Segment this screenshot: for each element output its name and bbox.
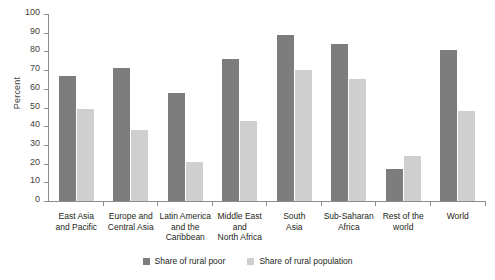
legend-swatch-icon <box>247 258 254 265</box>
x-axis-category-line: North Africa <box>213 232 268 243</box>
x-axis-category-label: Sub-SaharanAfrica <box>322 202 377 248</box>
y-axis-tick-label: 0 <box>8 195 40 204</box>
x-axis-categories: East Asiaand PacificEurope andCentral As… <box>49 202 485 248</box>
x-axis-separator-tick <box>103 202 104 206</box>
legend-item[interactable]: Share of rural population <box>247 256 352 266</box>
x-axis-separator-tick <box>485 202 486 206</box>
chart-legend: Share of rural poorShare of rural popula… <box>0 256 495 266</box>
y-axis-ticks: 1009080706050403020100 <box>0 14 48 202</box>
x-axis-category-line: and Pacific <box>49 222 104 233</box>
bar-group <box>431 14 486 201</box>
bar <box>349 79 366 201</box>
bar-group <box>376 14 431 201</box>
bar-group <box>49 14 104 201</box>
bar <box>386 169 403 201</box>
x-axis-category-line: East Asia <box>49 211 104 222</box>
legend-label: Share of rural population <box>259 256 352 266</box>
bar <box>186 162 203 201</box>
x-axis-category-line: Europe and <box>104 211 159 222</box>
y-axis-tick-label: 70 <box>8 64 40 73</box>
bar <box>277 35 294 201</box>
x-axis-category-line: World <box>431 211 486 222</box>
legend-label: Share of rural poor <box>155 256 226 266</box>
bar <box>295 70 312 201</box>
bar <box>404 156 421 201</box>
x-axis-category-line: Caribbean <box>158 232 213 243</box>
x-axis-category-label: Europe andCentral Asia <box>104 202 159 248</box>
x-axis-category-line: and <box>213 222 268 233</box>
bar-groups <box>49 14 485 201</box>
bar <box>240 121 257 201</box>
y-axis-tick-label: 30 <box>8 139 40 148</box>
bar <box>440 50 457 201</box>
x-axis-category-line: Rest of the <box>376 211 431 222</box>
bar-group <box>322 14 377 201</box>
x-axis-category-label: Latin Americaand theCaribbean <box>158 202 213 248</box>
bar <box>222 59 239 201</box>
x-axis-separator-tick <box>321 202 322 206</box>
legend-item[interactable]: Share of rural poor <box>143 256 226 266</box>
x-axis-separator-tick <box>157 202 158 206</box>
bar <box>77 109 94 201</box>
y-axis-tick-label: 100 <box>8 8 40 17</box>
x-axis-category-label: Middle EastandNorth Africa <box>213 202 268 248</box>
x-axis-category-label: East Asiaand Pacific <box>49 202 104 248</box>
y-axis-tick-label: 40 <box>8 120 40 129</box>
x-axis-separator-tick <box>430 202 431 206</box>
legend-swatch-icon <box>143 258 150 265</box>
x-axis-category-line: Central Asia <box>104 222 159 233</box>
x-axis-category-line: Middle East <box>213 211 268 222</box>
x-axis-separator-tick <box>375 202 376 206</box>
y-axis-tick-label: 10 <box>8 176 40 185</box>
x-axis-separator-tick <box>266 202 267 206</box>
x-axis-category-line: Africa <box>322 222 377 233</box>
bar <box>331 44 348 201</box>
bar-chart: Percent 1009080706050403020100 East Asia… <box>0 0 495 280</box>
x-axis-category-line: South <box>267 211 322 222</box>
bar-group <box>267 14 322 201</box>
x-axis-category-line: Latin America <box>158 211 213 222</box>
y-axis-tick-label: 50 <box>8 102 40 111</box>
bar <box>131 130 148 201</box>
bar <box>59 76 76 201</box>
x-axis-separator-tick <box>212 202 213 206</box>
x-axis-category-line: world <box>376 222 431 233</box>
y-axis-tick-label: 20 <box>8 158 40 167</box>
x-axis-category-line: Asia <box>267 222 322 233</box>
bar-group <box>213 14 268 201</box>
bar <box>168 93 185 201</box>
x-axis-category-line: and the <box>158 222 213 233</box>
bar-group <box>158 14 213 201</box>
x-axis-category-label: Rest of theworld <box>376 202 431 248</box>
x-axis-category-line: Sub-Saharan <box>322 211 377 222</box>
bar <box>458 111 475 201</box>
x-axis-category-label: SouthAsia <box>267 202 322 248</box>
x-axis-category-label: World <box>431 202 486 248</box>
bar-group <box>104 14 159 201</box>
y-axis-tick-label: 60 <box>8 83 40 92</box>
y-axis-tick-label: 90 <box>8 27 40 36</box>
y-axis-tick-label: 80 <box>8 45 40 54</box>
bar <box>113 68 130 201</box>
